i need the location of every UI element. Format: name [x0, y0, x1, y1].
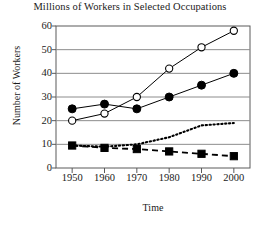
- marker-filled-circle-series-1990: [198, 81, 206, 89]
- plot-area: [0, 0, 260, 229]
- marker-filled-circle-series-1950: [68, 105, 76, 113]
- marker-open-circle-series-1980: [166, 65, 173, 72]
- marker-open-circle-series-1960: [101, 110, 108, 117]
- marker-open-circle-series-1970: [133, 93, 140, 100]
- series-line-filled-circle-series: [72, 73, 234, 109]
- marker-open-circle-series-1950: [69, 117, 76, 124]
- marker-filled-square-series-1990: [198, 150, 205, 157]
- marker-filled-circle-series-1980: [165, 93, 173, 101]
- chart-container: Millions of Workers in Selected Occupati…: [0, 0, 260, 229]
- marker-filled-circle-series-2000: [230, 69, 238, 77]
- marker-filled-square-series-1960: [101, 144, 108, 151]
- marker-filled-circle-series-1960: [101, 100, 109, 108]
- series-line-filled-square-series: [72, 146, 234, 157]
- marker-filled-square-series-1980: [166, 148, 173, 155]
- marker-filled-square-series-2000: [230, 153, 237, 160]
- series-line-open-circle-series: [72, 31, 234, 121]
- marker-filled-square-series-1950: [69, 142, 76, 149]
- marker-open-circle-series-1990: [198, 44, 205, 51]
- marker-open-circle-series-2000: [230, 27, 237, 34]
- marker-filled-square-series-1970: [133, 145, 140, 152]
- series-line-dotted-series: [72, 123, 234, 147]
- marker-filled-circle-series-1970: [133, 105, 141, 113]
